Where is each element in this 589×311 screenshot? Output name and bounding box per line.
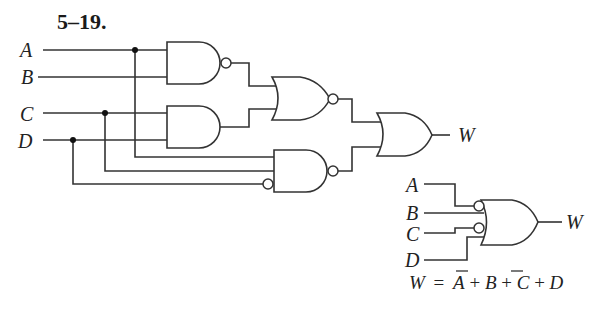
equation-term-b: B — [485, 272, 497, 293]
simplified-or-gate — [481, 200, 538, 245]
input-label-a: A — [18, 39, 33, 61]
equation-op-1: + — [469, 272, 480, 293]
simplified-label-c: C — [406, 223, 420, 245]
equation-op-2: + — [501, 272, 512, 293]
equation-lhs: W — [409, 272, 427, 293]
junction-dot-a — [132, 47, 138, 53]
equation-term-a: A — [451, 272, 465, 293]
equation-term-d: D — [549, 272, 564, 293]
equation-op-3: + — [534, 272, 545, 293]
junction-dot-c — [102, 110, 108, 116]
simplified-circuit: A B C D W — [404, 174, 585, 271]
wire-g2-nor — [220, 109, 278, 127]
nand-gate-4 — [263, 150, 338, 192]
nand-gate-1 — [167, 42, 231, 84]
simplified-output-label-w: W — [566, 211, 585, 233]
and-gate-2 — [167, 106, 220, 148]
input-label-c: C — [20, 103, 34, 125]
logic-circuit-diagram: 5–19. A B C D — [0, 0, 589, 311]
or-gate-5 — [377, 113, 432, 156]
input-label-b: B — [21, 66, 33, 88]
wire-g1-nor — [231, 63, 278, 86]
simplified-label-a: A — [404, 174, 419, 196]
wire-nand-or — [338, 147, 382, 171]
simplified-label-d: D — [404, 249, 420, 271]
nor-gate-3 — [272, 77, 338, 120]
output-label-w: W — [458, 124, 477, 146]
boolean-equation: W = A + B + C + D — [409, 271, 564, 293]
inverted-input-bubble-c — [474, 223, 484, 233]
equation-equals: = — [434, 272, 445, 293]
equation-term-c: C — [517, 272, 530, 293]
problem-number: 5–19. — [57, 9, 107, 34]
input-label-d: D — [17, 130, 33, 152]
junction-dot-d — [70, 137, 76, 143]
inverted-input-bubble-a — [474, 201, 484, 211]
wire-nor-or — [338, 99, 382, 122]
inverted-input-bubble-d — [263, 179, 273, 189]
simplified-label-b: B — [406, 202, 418, 224]
svg-text:W = A +: W = A + B + C + D — [409, 272, 564, 293]
